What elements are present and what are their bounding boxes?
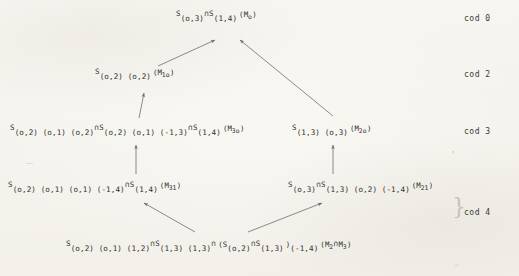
node-cod3-left-mtag-close: ) xyxy=(240,124,245,133)
margin-tick-mark: ' xyxy=(452,150,454,160)
node-cod0-mtag-open: (M xyxy=(239,10,248,19)
node-bottom-mtag-3: M3) xyxy=(338,240,351,249)
node-bottom-index-1: (o,2) (o,1) (1,2) xyxy=(71,244,150,253)
node-cod3-right-index-1: (1,3) (o,3) xyxy=(297,128,348,137)
node-cod3-left-index-2: (o,2) (o,1) (-1,3) xyxy=(104,128,188,137)
node-cod0-mtag-sub: o xyxy=(248,13,252,21)
node-cod0-index-1: (o,3) xyxy=(181,14,204,23)
node-bottom: S(o,2) (o,1) (1,2)∩S(1,3) (1,3)∩(S(o,2)∩… xyxy=(66,242,352,251)
node-cod3-left-mtag-sub: 3o xyxy=(232,127,240,135)
node-cod2-mtag-close: ) xyxy=(170,68,175,77)
node-cod4-right-mtag-close: ) xyxy=(429,181,434,190)
node-bottom-symbol-S1: S xyxy=(66,239,71,248)
node-cod4-right-mtag-open: (M xyxy=(412,181,421,190)
node-cod3-right-mtag: (M2o) xyxy=(348,124,372,133)
node-cod2-mtag-open: (M xyxy=(153,68,162,77)
node-cod4-left-mtag-close: ) xyxy=(177,181,182,190)
arrow-bottom-to-cod4left xyxy=(144,203,195,232)
node-cod4-right-index-2: (1,3) (o,2) (-1,4) xyxy=(326,185,410,194)
node-cod3-left-index-1: (o,2) (o,1) (o,2) xyxy=(15,128,94,137)
node-cod0: S(o,3)∩S(1,4)(Mo) xyxy=(176,12,257,21)
arrow-cod3left-to-cod2 xyxy=(139,93,144,118)
node-cod3-right-symbol-S1: S xyxy=(292,123,297,132)
node-cod4-right-mtag-sub: 21 xyxy=(421,184,429,192)
arrow-cod2-to-cod0 xyxy=(158,40,215,66)
cod-label-0: cod 0 xyxy=(464,14,491,23)
node-bottom-mtag-2: (M2 xyxy=(318,240,333,249)
node-bottom-mtag-3-sub: 3 xyxy=(343,243,347,251)
node-cod0-mtag-close: ) xyxy=(252,10,257,19)
node-bottom-index-3: (o,2) xyxy=(227,244,250,253)
node-cod3-left-symbol-S3: S xyxy=(193,123,198,132)
node-cod0-symbol-S1: S xyxy=(176,9,181,18)
node-bottom-index-5: (-1,4) xyxy=(290,244,318,253)
scan-speck-1 xyxy=(26,163,33,164)
node-cod4-right-symbol-S1: S xyxy=(288,180,293,189)
node-cod2-symbol-S1: S xyxy=(95,67,100,76)
cod-label-4: cod 4 xyxy=(464,208,491,217)
node-cod0-index-2: (1,4) xyxy=(214,14,237,23)
node-cod3-right: S(1,3) (o,3)(M2o) xyxy=(292,126,372,135)
arrow-cod3right-to-cod0 xyxy=(240,40,333,116)
node-cod3-left-mtag-open: (M xyxy=(223,124,232,133)
node-cod2-mtag: (M1o) xyxy=(151,68,175,77)
node-bottom-index-2: (1,3) (1,3) xyxy=(160,244,211,253)
node-bottom-group-open: (S xyxy=(216,240,227,249)
cod-label-3: cod 3 xyxy=(464,127,491,136)
node-cod3-right-mtag-open: (M xyxy=(350,124,359,133)
node-cod0-mtag: (Mo) xyxy=(237,10,257,19)
node-cod2: S(o,2) (o,2)(M1o) xyxy=(95,70,175,79)
node-cod4-left: S(o,2) (o,1) (o,1) (-1,4)∩S(1,4)(M31) xyxy=(8,183,181,192)
node-cod4-left-index-2: (1,4) xyxy=(134,185,157,194)
node-cod3-left-symbol-S1: S xyxy=(10,123,15,132)
node-cod3-left-index-3: (1,4) xyxy=(198,128,221,137)
paper-texture xyxy=(0,0,519,276)
node-cod2-index-1: (o,2) (o,2) xyxy=(100,72,151,81)
node-cod4-right-index-1: (o,3) xyxy=(293,185,316,194)
node-cod4-left-index-1: (o,2) (o,1) (o,1) (-1,4) xyxy=(13,185,125,194)
scanned-diagram-page: S(o,3)∩S(1,4)(Mo) S(o,2) (o,2)(M1o) S(o,… xyxy=(0,0,519,276)
node-cod3-left-mtag: (M3o) xyxy=(221,124,245,133)
node-cod2-mtag-sub: 1o xyxy=(162,71,170,79)
node-cod4-right-mtag: (M21) xyxy=(410,181,434,190)
node-cod4-left-mtag-open: (M xyxy=(160,181,169,190)
node-cod4-right: S(o,3)∩S(1,3) (o,2) (-1,4)(M21) xyxy=(288,183,433,192)
intersection-icon: ∩ xyxy=(251,239,256,248)
scan-speck-2 xyxy=(455,263,458,267)
node-cod3-left: S(o,2) (o,1) (o,2)∩S(o,2) (o,1) (-1,3)∩S… xyxy=(10,126,245,135)
node-cod4-left-symbol-S1: S xyxy=(8,180,13,189)
node-cod4-left-mtag: (M31) xyxy=(158,181,182,190)
arrow-layer xyxy=(0,0,519,276)
node-bottom-mtag-3-close: ) xyxy=(347,240,352,249)
node-bottom-index-4: (1,3) xyxy=(260,244,283,253)
cod-label-2: cod 2 xyxy=(464,70,491,79)
node-cod4-left-mtag-sub: 31 xyxy=(169,184,177,192)
arrow-bottom-to-cod4right xyxy=(248,203,322,232)
node-cod3-right-mtag-sub: 2o xyxy=(359,127,367,135)
node-cod3-right-mtag-close: ) xyxy=(367,124,372,133)
